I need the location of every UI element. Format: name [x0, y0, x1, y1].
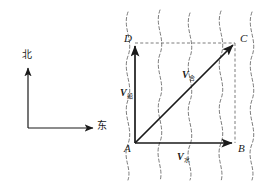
current-line-5 [250, 12, 254, 180]
velocity-vectors [135, 45, 233, 143]
vector-label-boat: V船 [120, 88, 133, 99]
vector-diagram-svg [0, 0, 272, 189]
river-current-lines [126, 10, 254, 181]
vector-label-resultant-base: V [182, 69, 189, 80]
vector-label-resultant: V合 [182, 70, 195, 81]
compass-east-label: 东 [97, 121, 107, 131]
point-label-C: C [240, 33, 247, 44]
point-label-B: B [238, 143, 245, 154]
vector-label-water-base: V [177, 151, 184, 162]
vector-label-water: V水 [177, 152, 190, 163]
current-line-2 [158, 10, 162, 181]
vector-label-boat-subscript: 船 [127, 92, 133, 99]
vector-label-boat-base: V [120, 87, 127, 98]
vector-label-water-subscript: 水 [184, 156, 190, 163]
compass-north-label: 北 [22, 50, 32, 60]
figure-canvas: 北 东 A B C D V船 V合 V水 [0, 0, 272, 189]
vector-label-resultant-subscript: 合 [189, 74, 195, 81]
point-label-A: A [124, 143, 131, 154]
vector-resultant-AC [135, 45, 233, 143]
point-label-D: D [124, 33, 132, 44]
current-line-4 [219, 11, 223, 181]
compass-group [28, 68, 93, 128]
